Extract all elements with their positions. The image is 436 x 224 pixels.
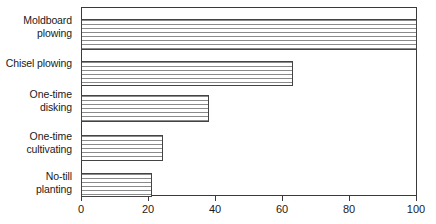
x-tick-label-40: 40 xyxy=(209,203,221,216)
x-tick-label-60: 60 xyxy=(276,203,288,216)
bar-no-till-planting xyxy=(81,173,152,197)
x-axis-tick-labels: 0 20 40 60 80 100 xyxy=(81,203,417,219)
x-axis-ticks xyxy=(81,196,417,202)
x-tick-label-80: 80 xyxy=(343,203,355,216)
x-tick-80 xyxy=(349,196,350,201)
category-label-one-time-disking: One-time disking xyxy=(30,88,72,113)
bar-one-time-disking xyxy=(81,95,209,122)
x-tick-20 xyxy=(148,196,149,201)
x-tick-label-0: 0 xyxy=(78,203,84,216)
x-tick-label-20: 20 xyxy=(142,203,154,216)
horizontal-bar-chart: Moldboard plowing Chisel plowing One-tim… xyxy=(0,0,436,224)
x-tick-label-100: 100 xyxy=(407,203,425,216)
category-label-moldboard-plowing: Moldboard plowing xyxy=(23,14,72,39)
category-axis-labels: Moldboard plowing Chisel plowing One-tim… xyxy=(0,0,76,196)
category-label-one-time-cultivating: One-time cultivating xyxy=(26,130,72,155)
bars-layer xyxy=(81,7,417,196)
bar-one-time-cultivating xyxy=(81,135,163,161)
x-tick-0 xyxy=(81,196,82,201)
x-tick-100 xyxy=(416,196,417,201)
x-tick-40 xyxy=(215,196,216,201)
category-label-chisel-plowing: Chisel plowing xyxy=(6,57,72,70)
x-tick-60 xyxy=(282,196,283,201)
category-label-no-till-planting: No-till planting xyxy=(36,170,72,195)
bar-chisel-plowing xyxy=(81,61,293,86)
bar-moldboard-plowing xyxy=(81,19,417,50)
